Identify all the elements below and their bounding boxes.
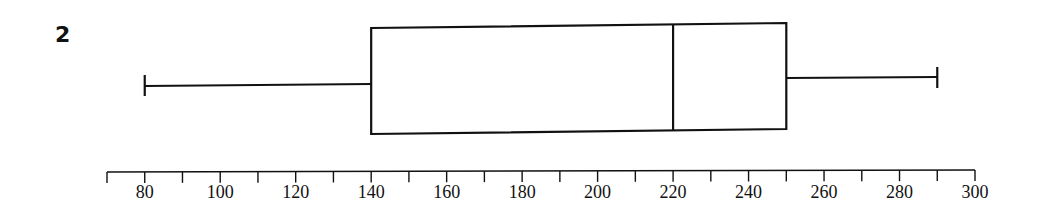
tick-label: 200 — [584, 182, 611, 202]
iqr-box — [371, 23, 786, 134]
tick-label: 280 — [886, 182, 913, 202]
number-line-axis: 80100120140160180200220240260280300 — [107, 170, 989, 202]
box-plot — [145, 23, 938, 134]
axis-line — [107, 170, 975, 172]
tick-label: 100 — [207, 182, 234, 202]
tick-label: 220 — [660, 182, 687, 202]
tick-label: 260 — [811, 182, 838, 202]
tick-label: 140 — [358, 182, 385, 202]
tick-label: 80 — [136, 182, 154, 202]
tick-label: 180 — [509, 182, 536, 202]
tick-label: 240 — [735, 182, 762, 202]
left-whisker — [145, 84, 371, 86]
tick-label: 300 — [962, 182, 989, 202]
box-plot-chart: 80100120140160180200220240260280300 — [0, 0, 1038, 212]
tick-label: 160 — [433, 182, 460, 202]
right-whisker — [786, 77, 937, 78]
tick-label: 120 — [282, 182, 309, 202]
